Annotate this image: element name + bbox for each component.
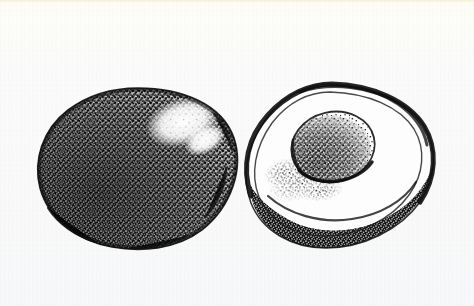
illustration-figure: Avocado Whole avocado Halved avocado wit…: [0, 0, 474, 306]
whole-avocado: [30, 80, 250, 260]
half-avocado: [240, 78, 445, 260]
avocado-artwork: [0, 0, 474, 306]
